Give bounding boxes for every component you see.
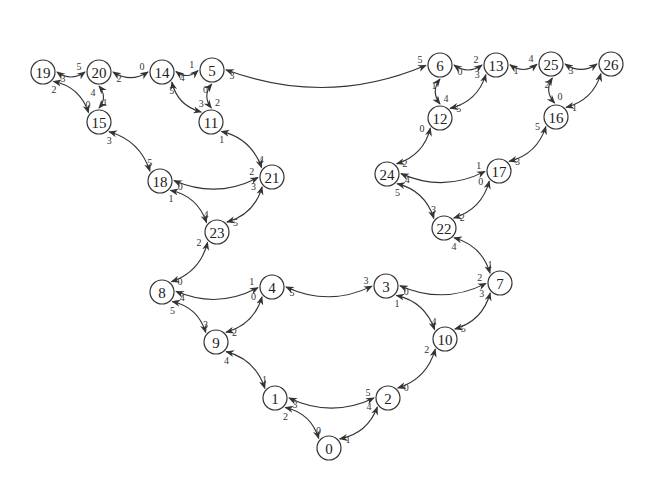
node-4: 4 bbox=[260, 275, 284, 299]
port-label: 1 bbox=[346, 434, 351, 445]
node-16: 16 bbox=[544, 105, 568, 129]
node-11: 11 bbox=[199, 110, 223, 134]
edge-5-6 bbox=[226, 65, 426, 87]
edge-8-4 bbox=[176, 288, 258, 300]
port-label: 4 bbox=[224, 355, 229, 366]
port-label: 4 bbox=[528, 53, 533, 64]
node-label: 9 bbox=[212, 335, 220, 351]
port-label: 1 bbox=[219, 134, 224, 145]
node-label: 21 bbox=[265, 170, 280, 186]
edge-14-11 bbox=[172, 82, 201, 112]
bidirectional-arrow bbox=[396, 295, 434, 329]
node-label: 0 bbox=[325, 441, 333, 457]
port-label: 3 bbox=[107, 135, 112, 146]
port-label: 0 bbox=[177, 276, 182, 287]
port-label: 4 bbox=[259, 154, 264, 165]
bidirectional-arrow bbox=[172, 82, 201, 112]
node-label: 8 bbox=[158, 285, 166, 301]
node-label: 14 bbox=[155, 65, 171, 81]
node-20: 20 bbox=[87, 60, 111, 84]
port-label: 5 bbox=[233, 217, 238, 228]
port-label: 3 bbox=[203, 319, 208, 330]
node-6: 6 bbox=[428, 53, 452, 77]
bidirectional-arrow bbox=[400, 283, 486, 294]
port-label: 5 bbox=[290, 287, 295, 298]
port-label: 4 bbox=[444, 93, 449, 104]
edge-0-1 bbox=[285, 408, 318, 439]
port-label: 3 bbox=[431, 204, 436, 215]
port-label: 4 bbox=[432, 316, 437, 327]
port-label: 4 bbox=[366, 401, 371, 412]
node-label: 19 bbox=[36, 65, 51, 81]
node-8: 8 bbox=[150, 280, 174, 304]
port-label: 1 bbox=[432, 80, 437, 91]
bidirectional-arrow bbox=[170, 190, 206, 222]
node-0: 0 bbox=[317, 436, 341, 460]
port-graph-diagram: 0214351402352041534153020214415335200241… bbox=[0, 0, 660, 486]
bidirectional-arrow bbox=[549, 78, 555, 103]
node-17: 17 bbox=[487, 159, 511, 183]
port-label: 3 bbox=[479, 288, 484, 299]
bidirectional-arrow bbox=[176, 288, 258, 300]
node-12: 12 bbox=[428, 106, 452, 130]
port-label: 4 bbox=[405, 174, 410, 185]
node-label: 25 bbox=[544, 57, 559, 73]
port-label: 0 bbox=[203, 84, 208, 95]
edge-23-18 bbox=[170, 190, 206, 222]
edge-layer bbox=[53, 64, 600, 439]
port-label: 1 bbox=[487, 259, 492, 270]
node-23: 23 bbox=[205, 220, 229, 244]
node-label: 4 bbox=[268, 280, 276, 296]
edge-21-11 bbox=[221, 131, 261, 167]
node-label: 5 bbox=[208, 63, 216, 79]
port-label: 1 bbox=[103, 97, 108, 108]
bidirectional-arrow bbox=[289, 398, 374, 408]
bidirectional-arrow bbox=[401, 171, 485, 182]
node-26: 26 bbox=[599, 52, 623, 76]
bidirectional-arrow bbox=[172, 302, 205, 333]
port-label: 1 bbox=[572, 102, 577, 113]
bidirectional-arrow bbox=[53, 81, 88, 112]
port-label: 0 bbox=[478, 176, 483, 187]
port-label: 4 bbox=[204, 209, 209, 220]
port-label: 1 bbox=[262, 374, 267, 385]
bidirectional-arrow bbox=[226, 352, 265, 389]
node-18: 18 bbox=[148, 169, 172, 193]
node-label: 6 bbox=[436, 58, 444, 74]
port-label: 5 bbox=[169, 85, 174, 96]
port-label: 3 bbox=[363, 275, 368, 286]
port-label: 0 bbox=[251, 291, 256, 302]
port-label: 2 bbox=[424, 344, 429, 355]
edge-1-9 bbox=[226, 352, 265, 389]
edge-9-8 bbox=[172, 302, 205, 333]
port-label: 2 bbox=[232, 327, 237, 338]
node-label: 22 bbox=[437, 221, 452, 237]
edge-25-16 bbox=[549, 78, 555, 103]
port-label: 4 bbox=[180, 72, 185, 83]
node-label: 16 bbox=[549, 110, 565, 126]
node-15: 15 bbox=[87, 110, 111, 134]
port-label: 5 bbox=[147, 157, 152, 168]
port-label: 5 bbox=[366, 387, 371, 398]
port-label: 5 bbox=[456, 103, 461, 114]
port-label: 5 bbox=[77, 61, 82, 72]
node-24: 24 bbox=[375, 162, 399, 186]
node-label: 7 bbox=[496, 276, 504, 292]
port-label: 2 bbox=[197, 237, 202, 248]
node-label: 23 bbox=[210, 225, 225, 241]
edge-22-24 bbox=[397, 184, 434, 219]
node-layer: 0123456789101112131415161718192021222324… bbox=[31, 52, 623, 460]
port-label: 2 bbox=[477, 272, 482, 283]
node-5: 5 bbox=[200, 58, 224, 82]
edge-4-3 bbox=[286, 286, 372, 297]
port-label: 2 bbox=[460, 212, 465, 223]
port-label: 4 bbox=[452, 241, 457, 252]
node-3: 3 bbox=[374, 274, 398, 298]
node-19: 19 bbox=[31, 60, 55, 84]
node-label: 24 bbox=[380, 167, 396, 183]
port-label: 5 bbox=[461, 323, 466, 334]
port-label: 0 bbox=[404, 286, 409, 297]
node-7: 7 bbox=[488, 271, 512, 295]
node-2: 2 bbox=[376, 386, 400, 410]
node-label: 20 bbox=[92, 65, 107, 81]
